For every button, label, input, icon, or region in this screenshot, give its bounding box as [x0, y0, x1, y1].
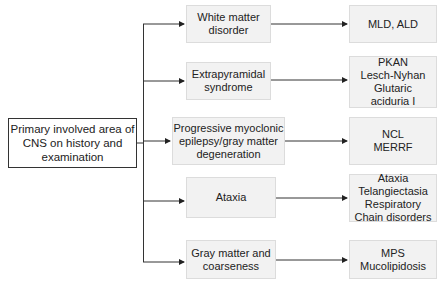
category-node-ataxia: Ataxia: [186, 177, 276, 218]
category-node-white-matter: White matter disorder: [186, 5, 271, 43]
category-node-gray-matter: Gray matter and coarseness: [186, 240, 276, 279]
category-node-extrapyramidal: Extrapyramidal syndrome: [186, 62, 271, 100]
root-node-label: Primary involved area of CNS on history …: [11, 122, 135, 164]
result-label: MPS Mucolipidosis: [360, 247, 426, 273]
root-node: Primary involved area of CNS on history …: [8, 118, 137, 168]
result-label: Ataxia Telangiectasia Respiratory Chain …: [354, 172, 431, 224]
result-node-progressive-myoclonic: NCL MERRF: [349, 117, 437, 165]
category-label: Gray matter and coarseness: [191, 247, 270, 273]
result-label: NCL MERRF: [373, 128, 412, 154]
category-label: Extrapyramidal syndrome: [192, 68, 265, 94]
result-node-white-matter: MLD, ALD: [349, 5, 437, 43]
result-label: MLD, ALD: [368, 18, 418, 31]
result-label: PKAN Lesch-Nyhan Glutaric aciduria I: [361, 56, 426, 108]
category-label: White matter disorder: [197, 11, 259, 37]
result-node-extrapyramidal: PKAN Lesch-Nyhan Glutaric aciduria I: [349, 56, 437, 108]
result-node-ataxia: Ataxia Telangiectasia Respiratory Chain …: [349, 174, 437, 222]
result-node-gray-matter: MPS Mucolipidosis: [349, 240, 437, 279]
category-label: Ataxia: [216, 191, 247, 204]
category-node-progressive-myoclonic: Progressive myoclonic epilepsy/gray matt…: [172, 117, 285, 165]
category-label: Progressive myoclonic epilepsy/gray matt…: [173, 122, 283, 161]
